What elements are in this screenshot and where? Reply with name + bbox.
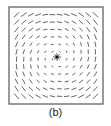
center-star-icon (53, 53, 61, 61)
figure-caption: (b) (0, 106, 111, 118)
